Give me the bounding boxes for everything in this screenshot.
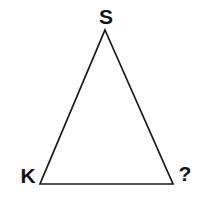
vertex-label-bottom-right: ? — [175, 163, 195, 184]
triangle-outline — [40, 30, 173, 184]
vertex-label-bottom-left: K — [18, 165, 38, 186]
figure-canvas: S K ? — [0, 0, 197, 200]
vertex-label-apex: S — [96, 6, 116, 27]
